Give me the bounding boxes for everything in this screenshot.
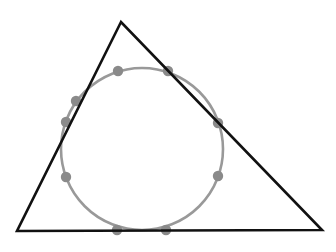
- triangle-circle-diagram: [0, 0, 336, 252]
- background: [0, 0, 336, 252]
- circle-point-6: [61, 172, 71, 182]
- circle-point-1: [113, 66, 123, 76]
- circle-point-7: [213, 171, 223, 181]
